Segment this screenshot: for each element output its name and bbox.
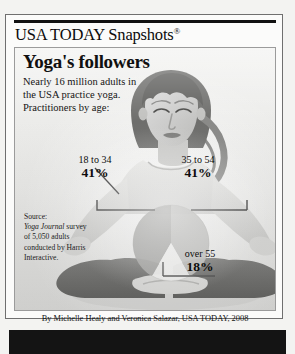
chart-subtitle: Nearly 16 million adults in the USA prac…: [23, 76, 143, 114]
snapshot-page: USA TODAY Snapshots®: [0, 0, 295, 354]
source-note: Source: Yoga Journal survey of 5,050 adu…: [24, 212, 88, 263]
callout-percent-value: 41%: [163, 165, 233, 181]
byline: By Michelle Healy and Veronica Salazar, …: [14, 314, 276, 323]
source-publication: Yoga Journal: [24, 222, 64, 231]
callout-percent-value: 41%: [60, 165, 130, 181]
masthead-title: USA TODAY Snapshots: [15, 25, 174, 44]
page-title: Yoga's followers: [23, 52, 213, 71]
callout-percent-value: 18%: [165, 259, 235, 275]
bottom-black-band: [9, 330, 286, 354]
callout-18-to-34: 18 to 34 41%: [60, 154, 130, 181]
snapshot-card: USA TODAY Snapshots®: [5, 14, 283, 319]
registered-trademark-icon: ®: [174, 26, 181, 36]
masthead-rule: [14, 20, 276, 23]
callout-age-label: over 55: [165, 248, 235, 259]
chart-panel: Yoga's followers Nearly 16 million adult…: [14, 47, 276, 311]
source-label: Source:: [24, 212, 47, 221]
callout-35-to-54: 35 to 54 41%: [163, 154, 233, 181]
callout-age-label: 35 to 54: [163, 154, 233, 165]
callout-age-label: 18 to 34: [60, 154, 130, 165]
callout-over-55: over 55 18%: [165, 248, 235, 275]
masthead: USA TODAY Snapshots®: [15, 25, 277, 45]
